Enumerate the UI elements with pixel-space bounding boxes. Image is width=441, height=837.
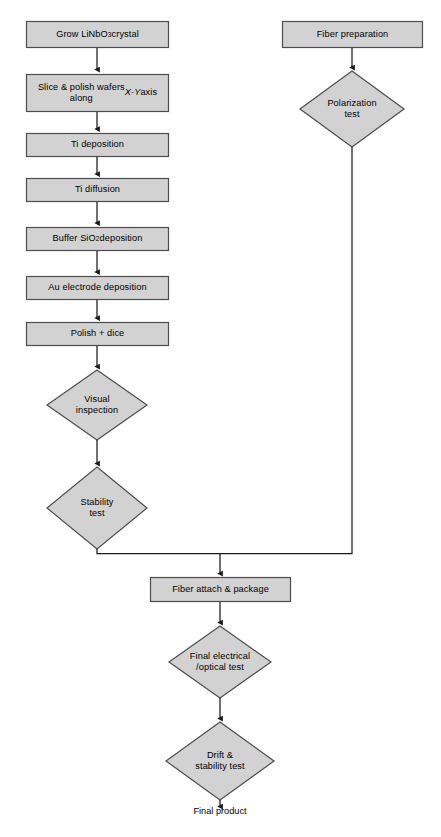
node-polish-dice[interactable]: [26, 322, 169, 346]
node-polarization-test[interactable]: [300, 71, 404, 147]
node-buffer-sio2[interactable]: [26, 227, 169, 251]
node-ti-diffusion[interactable]: [26, 178, 169, 202]
node-slice-polish[interactable]: [26, 74, 169, 112]
flowchart-canvas: Grow LiNbO3 crystal Slice & polish wafer…: [0, 0, 441, 837]
node-drift-stability-test[interactable]: [166, 722, 274, 800]
node-au-electrode[interactable]: [26, 276, 169, 300]
node-final-electrical-optical-test[interactable]: [169, 626, 271, 698]
node-grow-crystal[interactable]: [26, 21, 169, 48]
connector-stability-to-merge-bus: [97, 549, 220, 554]
node-ti-deposition[interactable]: [26, 133, 169, 157]
node-fiber-attach[interactable]: [150, 577, 291, 602]
node-stability-test[interactable]: [47, 467, 147, 549]
node-fiber-preparation[interactable]: [282, 21, 423, 48]
node-visual-inspection[interactable]: [47, 370, 147, 440]
final-product-label: Final product: [160, 806, 280, 817]
connector-polarization-to-merge-bus: [220, 147, 352, 554]
